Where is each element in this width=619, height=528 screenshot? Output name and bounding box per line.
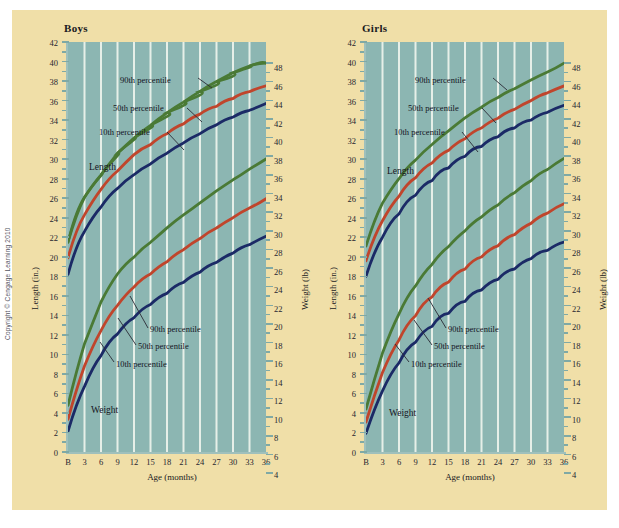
y-axis-right-title-boys: Weight (lb) xyxy=(300,269,310,310)
growth-chart-figure: Copyright © Cengage Learning 2010 Boys xyxy=(12,10,607,510)
plot-svg-girls xyxy=(366,42,564,452)
plot-svg-boys xyxy=(68,42,266,452)
panel-title-boys: Boys xyxy=(64,22,88,34)
y-axis-right-title-girls: Weight (lb) xyxy=(598,269,608,310)
annot-boys-weight-p90: 90th percentile xyxy=(150,324,201,334)
vertical-gridlines-boys xyxy=(85,42,250,452)
x-axis-spine-boys xyxy=(66,452,268,454)
annot-girls-weight-p50: 50th percentile xyxy=(434,341,485,351)
annot-girls-length-p90: 90th percentile xyxy=(415,75,466,85)
annot-boys-length-p90: 90th percentile xyxy=(120,75,171,85)
plot-area-girls: Length Weight xyxy=(366,42,564,452)
x-axis-title-boys: Age (months) xyxy=(117,472,227,482)
annot-girls-weight-p90: 90th percentile xyxy=(448,324,499,334)
y-axis-left-title-girls: Length (in.) xyxy=(328,267,338,310)
annot-boys-weight-p10: 10th percentile xyxy=(116,359,167,369)
annot-boys-length-p50: 50th percentile xyxy=(113,103,164,113)
series-label-girls-weight: Weight xyxy=(389,408,416,418)
y-axis-left-title-boys: Length (in.) xyxy=(30,267,40,310)
panel-boys: Boys xyxy=(12,10,309,510)
plot-area-boys: Length Weight xyxy=(68,42,266,452)
x-axis-title-girls: Age (months) xyxy=(415,472,525,482)
panel-girls: Girls xyxy=(310,10,607,510)
annot-girls-length-p10: 10th percentile xyxy=(394,127,445,137)
x-axis-spine-girls xyxy=(364,452,566,454)
annot-boys-length-p10: 10th percentile xyxy=(99,127,150,137)
annot-girls-length-p50: 50th percentile xyxy=(408,103,459,113)
series-label-boys-weight: Weight xyxy=(91,405,118,415)
panel-title-girls: Girls xyxy=(362,22,387,34)
series-label-girls-length: Length xyxy=(387,166,414,176)
series-label-boys-length: Length xyxy=(89,162,116,172)
annot-girls-weight-p10: 10th percentile xyxy=(411,359,462,369)
copyright-notice: Copyright © Cengage Learning 2010 xyxy=(4,227,11,340)
annot-boys-weight-p50: 50th percentile xyxy=(138,341,189,351)
